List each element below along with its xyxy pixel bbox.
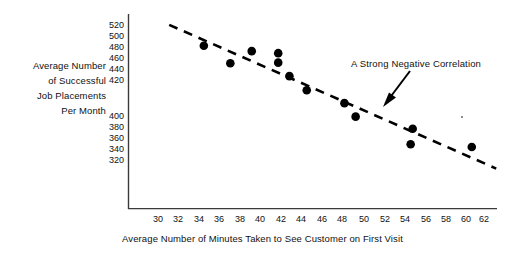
stray-speck [461,116,463,118]
data-point [340,99,349,108]
data-point [408,124,417,133]
data-point [226,59,235,68]
data-point [285,72,294,81]
data-point [351,112,360,121]
data-points-layer [200,41,477,151]
data-point [406,140,415,149]
annotation-arrow-icon [383,71,410,107]
data-point [302,86,311,95]
trend-line [169,25,496,169]
plot-canvas [0,0,525,262]
data-point [467,143,476,152]
data-point [274,49,283,58]
data-point [200,41,209,50]
data-point [247,47,256,56]
scatter-plot-figure: Average Number of Successful Job Placeme… [0,0,525,262]
data-point [274,58,283,67]
